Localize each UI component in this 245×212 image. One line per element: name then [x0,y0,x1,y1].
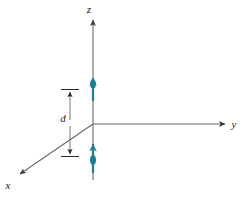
axes-group [20,20,225,180]
z-axis-label: z [86,3,92,15]
dimension-label-d: d [60,112,66,124]
lower-dipole-bulge [90,155,96,165]
upper-dipole-bulge [90,79,96,88]
x-axis-label: x [5,179,11,191]
labels-group: z y x d [5,3,237,191]
coordinate-axes-figure: z y x d [0,0,245,212]
lower-dipole-arrow [90,144,96,173]
upper-dipole-arrow [90,78,96,101]
x-axis-line [20,124,93,174]
x-axis [20,124,93,174]
figure-container: z y x d [0,0,245,212]
y-axis-label: y [231,118,237,130]
